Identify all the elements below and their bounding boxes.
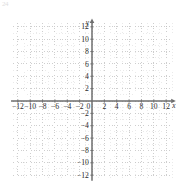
svg-text:6: 6 (127, 102, 131, 111)
svg-text:−10: −10 (77, 158, 89, 167)
svg-text:10: 10 (81, 35, 89, 44)
svg-text:8: 8 (85, 47, 89, 56)
svg-text:10: 10 (150, 102, 158, 111)
svg-text:−6: −6 (81, 134, 89, 143)
svg-text:−12: −12 (77, 171, 89, 180)
graph-figure: 24 −12−10−8−6−4−202468101212108642−2−4−6… (0, 0, 185, 193)
svg-text:8: 8 (140, 102, 144, 111)
svg-text:−4: −4 (63, 102, 71, 111)
svg-text:2: 2 (102, 102, 106, 111)
svg-text:−8: −8 (39, 102, 47, 111)
coordinate-plane: −12−10−8−6−4−202468101212108642−2−4−6−8−… (0, 0, 185, 193)
svg-text:−6: −6 (51, 102, 59, 111)
svg-text:4: 4 (115, 102, 119, 111)
svg-text:−8: −8 (81, 146, 89, 155)
axes (11, 18, 176, 180)
svg-text:6: 6 (85, 60, 89, 69)
svg-text:−12: −12 (12, 102, 24, 111)
svg-text:y: y (85, 18, 90, 27)
svg-text:12: 12 (162, 102, 170, 111)
svg-text:−2: −2 (81, 109, 89, 118)
svg-text:−10: −10 (24, 102, 36, 111)
svg-text:x: x (171, 101, 176, 110)
svg-text:4: 4 (85, 72, 89, 81)
svg-text:−4: −4 (81, 121, 89, 130)
svg-text:2: 2 (85, 84, 89, 93)
